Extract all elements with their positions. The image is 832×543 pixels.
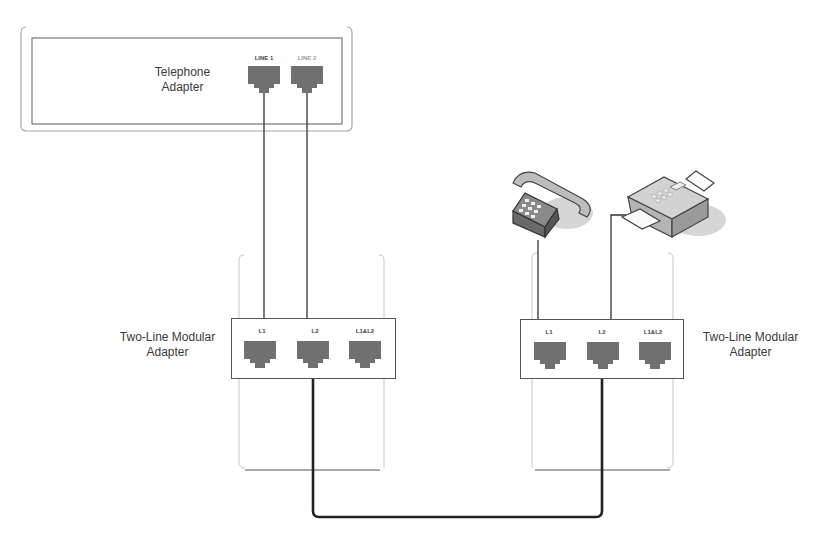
fax-machine-icon bbox=[618, 165, 728, 245]
fax-device[interactable] bbox=[618, 165, 728, 245]
port-label-line1: LINE 1 bbox=[249, 55, 279, 62]
diagram-canvas bbox=[0, 0, 832, 543]
left-port-label-l1l2: L1&L2 bbox=[350, 328, 380, 335]
right-jack-l1[interactable] bbox=[534, 342, 566, 372]
rj11-jack-icon bbox=[587, 342, 619, 372]
left-adapter-label-line2: Adapter bbox=[110, 345, 225, 360]
left-jack-l1[interactable] bbox=[244, 341, 276, 371]
right-jack-l2[interactable] bbox=[587, 342, 619, 372]
rj11-jack-icon bbox=[349, 341, 381, 371]
jack-line1[interactable] bbox=[248, 66, 280, 96]
rj11-jack-icon bbox=[244, 341, 276, 371]
telephone-adapter-label-line2: Adapter bbox=[140, 80, 225, 95]
right-adapter-label-line1: Two-Line Modular bbox=[693, 330, 808, 345]
telephone-icon bbox=[505, 165, 595, 245]
rj11-jack-icon bbox=[534, 342, 566, 372]
telephone-device[interactable] bbox=[505, 165, 595, 245]
left-port-label-l2: L2 bbox=[305, 328, 325, 335]
left-port-label-l1: L1 bbox=[252, 328, 272, 335]
left-modular-adapter: L1 L2 L1&L2 bbox=[231, 318, 396, 379]
right-jack-l1l2[interactable] bbox=[639, 342, 671, 372]
left-jack-l1l2[interactable] bbox=[349, 341, 381, 371]
rj11-jack-icon bbox=[297, 341, 329, 371]
telephone-adapter-label-line1: Telephone bbox=[140, 65, 225, 80]
right-modular-adapter-label: Two-Line Modular Adapter bbox=[693, 330, 808, 360]
right-adapter-label-line2: Adapter bbox=[693, 345, 808, 360]
telephone-adapter-label: Telephone Adapter bbox=[140, 65, 225, 95]
left-jack-l2[interactable] bbox=[297, 341, 329, 371]
right-port-label-l1l2: L1&L2 bbox=[638, 329, 668, 336]
left-modular-adapter-label: Two-Line Modular Adapter bbox=[110, 330, 225, 360]
port-label-line2: LINE 2 bbox=[292, 55, 322, 62]
right-port-label-l1: L1 bbox=[539, 329, 559, 336]
cable-left-l2-to-right-l2 bbox=[313, 378, 602, 517]
rj11-jack-icon bbox=[639, 342, 671, 372]
rj11-jack-icon bbox=[248, 66, 280, 96]
jack-line2[interactable] bbox=[291, 66, 323, 96]
right-modular-adapter: L1 L2 L1&L2 bbox=[520, 319, 684, 379]
left-adapter-label-line1: Two-Line Modular bbox=[110, 330, 225, 345]
rj11-jack-icon bbox=[291, 66, 323, 96]
right-port-label-l2: L2 bbox=[592, 329, 612, 336]
